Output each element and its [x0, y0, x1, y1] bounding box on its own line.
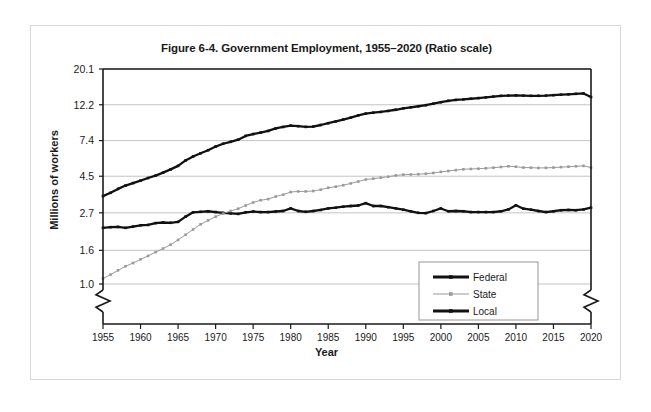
- data-point-marker: [207, 149, 210, 152]
- data-point-marker: [327, 207, 330, 210]
- data-point-marker: [214, 145, 217, 148]
- x-tick-label: 1995: [392, 332, 415, 343]
- data-point-marker: [162, 247, 165, 250]
- data-point-marker: [522, 207, 525, 210]
- data-point-marker: [410, 210, 413, 213]
- data-point-marker: [537, 94, 540, 97]
- data-point-marker: [237, 207, 240, 210]
- data-point-marker: [214, 215, 217, 218]
- data-point-marker: [500, 95, 503, 98]
- right-axis-break-symbol: [584, 290, 598, 312]
- data-point-marker: [274, 210, 277, 213]
- y-tick-labels: 1.01.62.74.57.412.220.1: [74, 63, 95, 290]
- data-point-marker: [177, 239, 180, 242]
- data-point-marker: [364, 202, 367, 205]
- data-point-marker: [567, 93, 570, 96]
- data-point-marker: [395, 174, 398, 177]
- data-point-marker: [342, 205, 345, 208]
- data-point-marker: [530, 95, 533, 98]
- data-point-marker: [214, 211, 217, 214]
- data-point-marker: [207, 210, 210, 213]
- series-line-local: [103, 93, 591, 196]
- data-point-marker: [199, 223, 202, 226]
- data-point-marker: [530, 166, 533, 169]
- data-point-marker: [364, 112, 367, 115]
- data-point-marker: [402, 208, 405, 211]
- data-point-marker: [139, 224, 142, 227]
- data-point-marker: [252, 201, 255, 204]
- y-axis-break-symbol: [96, 290, 110, 312]
- legend-marker-state: [449, 292, 453, 296]
- data-point-marker: [124, 227, 127, 230]
- data-point-marker: [124, 265, 127, 268]
- data-point-marker: [447, 210, 450, 213]
- data-point-marker: [327, 186, 330, 189]
- data-point-marker: [162, 221, 165, 224]
- data-point-marker: [154, 251, 157, 254]
- data-point-marker: [267, 211, 270, 214]
- data-point-marker: [440, 207, 443, 210]
- data-point-marker: [252, 133, 255, 136]
- data-point-marker: [319, 188, 322, 191]
- data-point-marker: [349, 205, 352, 208]
- data-point-marker: [192, 228, 195, 231]
- data-point-marker: [357, 114, 360, 117]
- data-point-marker: [560, 209, 563, 212]
- y-tick-label: 20.1: [74, 63, 95, 75]
- data-point-marker: [199, 210, 202, 213]
- x-tick-label: 2020: [580, 332, 603, 343]
- data-point-marker: [184, 233, 187, 236]
- data-point-marker: [507, 165, 510, 168]
- data-point-marker: [229, 140, 232, 143]
- data-point-marker: [440, 101, 443, 104]
- data-point-marker: [237, 138, 240, 141]
- data-point-marker: [552, 166, 555, 169]
- data-point-marker: [297, 210, 300, 213]
- data-point-marker: [124, 184, 127, 187]
- data-point-marker: [515, 165, 518, 168]
- x-tick-label: 1970: [204, 332, 227, 343]
- data-series-layer: [102, 92, 593, 280]
- data-point-marker: [537, 210, 540, 213]
- data-point-marker: [395, 108, 398, 111]
- data-point-marker: [289, 207, 292, 210]
- x-tick-label: 2000: [430, 332, 453, 343]
- data-point-marker: [132, 262, 135, 265]
- data-point-marker: [252, 210, 255, 213]
- data-point-marker: [312, 210, 315, 213]
- y-tick-label: 1.0: [79, 278, 94, 290]
- data-point-marker: [154, 222, 157, 225]
- data-point-marker: [192, 155, 195, 158]
- data-point-marker: [575, 93, 578, 96]
- data-point-marker: [169, 221, 172, 224]
- data-point-marker: [500, 210, 503, 213]
- data-point-marker: [132, 225, 135, 228]
- data-point-marker: [379, 111, 382, 114]
- y-tick-label: 12.2: [74, 99, 95, 111]
- data-point-marker: [289, 124, 292, 127]
- data-point-marker: [379, 176, 382, 179]
- data-point-marker: [304, 126, 307, 129]
- data-point-marker: [259, 199, 262, 202]
- data-point-marker: [282, 193, 285, 196]
- data-point-marker: [169, 168, 172, 171]
- data-point-marker: [184, 159, 187, 162]
- series-markers-local: [102, 92, 593, 197]
- data-point-marker: [372, 177, 375, 180]
- data-point-marker: [387, 175, 390, 178]
- data-point-marker: [477, 97, 480, 100]
- data-point-marker: [319, 124, 322, 127]
- data-point-marker: [560, 166, 563, 169]
- data-point-marker: [425, 104, 428, 107]
- data-point-marker: [372, 111, 375, 114]
- data-point-marker: [297, 190, 300, 193]
- x-tick-label: 1975: [242, 332, 265, 343]
- data-point-marker: [199, 152, 202, 155]
- data-point-marker: [192, 211, 195, 214]
- data-point-marker: [560, 93, 563, 96]
- data-point-marker: [447, 170, 450, 173]
- data-point-marker: [470, 97, 473, 100]
- data-point-marker: [259, 131, 262, 134]
- data-point-marker: [117, 269, 120, 272]
- data-point-marker: [109, 273, 112, 276]
